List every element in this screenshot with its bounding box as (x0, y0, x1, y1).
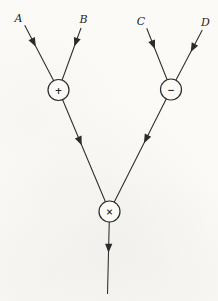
minus-symbol: − (167, 85, 175, 95)
plus-symbol: + (55, 86, 63, 96)
expression-dataflow-diagram: +−×ABCD (0, 0, 218, 301)
edge-minus-to-times-line (110, 90, 172, 212)
input-label-c: C (137, 15, 146, 28)
edge-plus-to-times (59, 90, 110, 212)
edge-b-to-plus-arrowhead-icon (74, 37, 81, 47)
edge-a-to-plus-arrowhead-icon (28, 37, 35, 47)
input-label-b: B (78, 13, 87, 26)
edge-minus-to-times (110, 90, 172, 212)
input-label-d: D (200, 16, 210, 29)
edge-times-to-output-arrowhead-icon (105, 244, 112, 253)
times-symbol: × (106, 207, 114, 217)
minus-node: − (161, 79, 182, 100)
edge-plus-to-times-arrowhead-icon (75, 136, 82, 146)
plus-node: + (48, 80, 69, 101)
edge-d-to-minus-arrowhead-icon (191, 42, 198, 52)
input-label-a: A (14, 12, 23, 25)
edge-c-to-minus-arrowhead-icon (148, 39, 155, 49)
times-node: × (99, 201, 120, 222)
edge-minus-to-times-arrowhead-icon (144, 134, 151, 144)
scanned-figure-page: +−×ABCD (0, 0, 218, 301)
edge-plus-to-times-line (59, 90, 110, 212)
edge-times-to-output (105, 212, 112, 295)
